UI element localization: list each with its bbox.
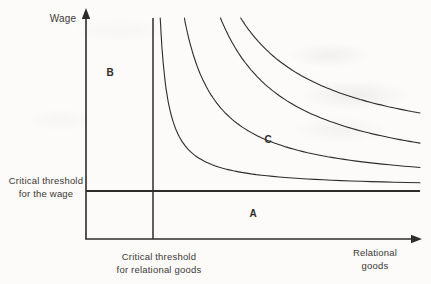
relational-goods-threshold-label-line2: for relational goods bbox=[94, 263, 224, 276]
wage-threshold-label: Critical threshold for the wage bbox=[6, 174, 86, 200]
indifference-curve-3 bbox=[221, 18, 421, 143]
x-axis-label-line1: Relational bbox=[340, 246, 410, 259]
y-axis-label: Wage bbox=[40, 12, 86, 25]
y-axis-label-text: Wage bbox=[50, 13, 77, 24]
region-label-a: A bbox=[246, 208, 260, 219]
x-axis-label-line2: goods bbox=[340, 259, 410, 272]
indifference-curve-4 bbox=[241, 18, 420, 113]
wage-relational-goods-diagram: Wage Critical threshold for the wage Cri… bbox=[0, 0, 431, 284]
relational-goods-threshold-label: Critical threshold for relational goods bbox=[94, 250, 224, 276]
region-label-b: B bbox=[103, 67, 117, 78]
indifference-curve-2 bbox=[184, 18, 420, 168]
relational-goods-threshold-label-line1: Critical threshold bbox=[94, 250, 224, 263]
x-axis-arrowhead-icon bbox=[411, 235, 422, 243]
diagram-canvas bbox=[0, 0, 431, 284]
wage-threshold-label-line2: for the wage bbox=[6, 187, 86, 200]
wage-threshold-label-line1: Critical threshold bbox=[6, 174, 86, 187]
region-label-c: C bbox=[261, 134, 275, 145]
x-axis-label: Relational goods bbox=[340, 246, 410, 272]
indifference-curve-1 bbox=[160, 18, 420, 183]
